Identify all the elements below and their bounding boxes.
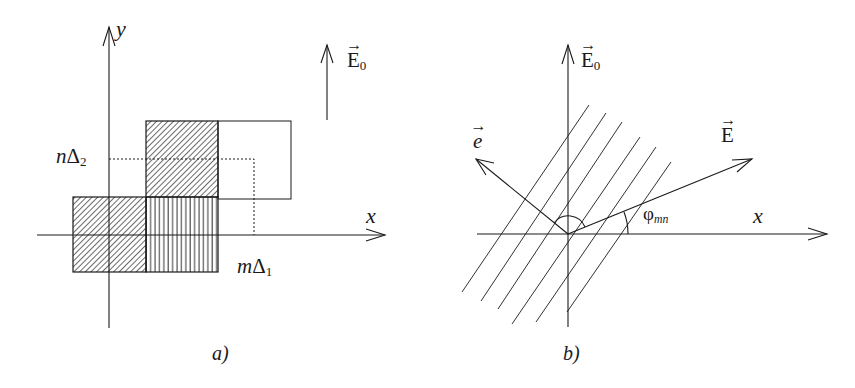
angle-arc-phi: [624, 212, 628, 234]
tick-y-label: nΔ2: [56, 146, 87, 168]
parallel-line: [567, 162, 671, 312]
x-axis-label: x: [753, 205, 763, 227]
figure: y x →E0 nΔ2 mΔ1 a) →E0 →E →e φmn x b): [0, 0, 855, 388]
vector-arrow-icon: →: [470, 118, 486, 134]
parallel-line: [498, 122, 622, 309]
x-axis-label: x: [366, 205, 376, 227]
field-e-label: →E: [721, 125, 734, 146]
vector-arrow-icon: →: [346, 37, 362, 53]
field-e0-label: →E0: [581, 50, 600, 72]
panel-a: [37, 27, 385, 328]
panel-a-caption: a): [212, 343, 229, 363]
unit-vector-e-label: →e: [473, 131, 482, 152]
vector-arrow-icon: →: [720, 112, 736, 128]
angle-phi-label: φmn: [643, 204, 668, 226]
vector-arrow-icon: →: [580, 37, 596, 53]
tick-x-label: mΔ1: [237, 256, 272, 278]
parallel-lines: [462, 105, 671, 324]
parallel-line: [481, 113, 606, 301]
diagram-canvas: [0, 0, 855, 388]
panel-b: [462, 45, 827, 327]
field-e0-label: →E0: [347, 50, 366, 72]
panel-b-caption: b): [563, 343, 580, 363]
y-axis-label: y: [116, 18, 126, 40]
